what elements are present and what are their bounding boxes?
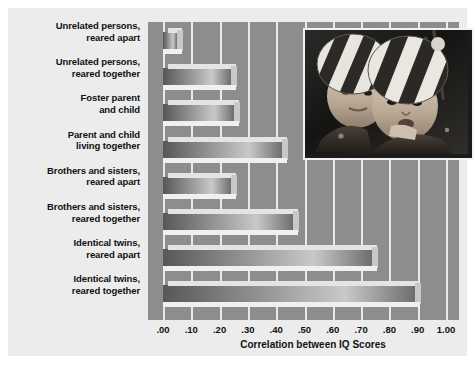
bar-shadow — [163, 121, 239, 126]
bar-top-face — [168, 137, 287, 142]
category-label-line: reared together — [8, 285, 140, 297]
bar-shadow — [163, 85, 236, 90]
bar-shadow — [163, 49, 182, 54]
x-tick-label: 1.00 — [429, 324, 463, 335]
bar-shadow — [163, 194, 236, 199]
bar-top-face — [168, 100, 239, 105]
bar — [163, 177, 231, 194]
category-label: Brothers and sisters,reared apart — [8, 165, 140, 188]
bar-right-face — [372, 247, 378, 268]
category-label-line: Unrelated persons, — [8, 20, 140, 32]
bar — [163, 141, 282, 158]
category-label-line: reared together — [8, 68, 140, 80]
bar-right-face — [415, 283, 421, 304]
category-label-line: Foster parent — [8, 92, 140, 104]
bar — [163, 285, 415, 302]
x-axis-title: Correlation between IQ Scores — [158, 339, 468, 350]
bar-right-face — [231, 175, 237, 196]
category-label: Identical twins,reared together — [8, 273, 140, 296]
category-label-line: living together — [8, 140, 140, 152]
category-label-line: reared apart — [8, 176, 140, 188]
bar-shadow — [163, 266, 377, 271]
photo-illustration — [305, 30, 468, 154]
bar-top-face — [168, 245, 377, 250]
bar-right-face — [234, 102, 240, 123]
category-label-line: reared together — [8, 213, 140, 225]
category-label-line: reared apart — [8, 249, 140, 261]
bar — [163, 213, 293, 230]
category-label-line: and child — [8, 104, 140, 116]
bar-shadow — [163, 302, 420, 307]
bar-top-face — [168, 209, 298, 214]
category-label-line: Parent and child — [8, 129, 140, 141]
bar-right-face — [293, 211, 299, 232]
category-label: Unrelated persons,reared apart — [8, 20, 140, 43]
bar-top-face — [168, 281, 420, 286]
category-label-line: Brothers and sisters, — [8, 165, 140, 177]
bar-top-face — [168, 64, 236, 69]
category-label: Brothers and sisters,reared together — [8, 201, 140, 224]
category-label: Parent and childliving together — [8, 129, 140, 152]
category-label-line: Unrelated persons, — [8, 56, 140, 68]
bar-right-face — [177, 30, 183, 51]
category-label: Foster parentand child — [8, 92, 140, 115]
category-label: Identical twins,reared apart — [8, 237, 140, 260]
bar-top-face — [168, 173, 236, 178]
category-label-line: Identical twins, — [8, 237, 140, 249]
bar-shadow — [163, 158, 287, 163]
chart-figure: Unrelated persons,reared apartUnrelated … — [0, 0, 475, 366]
twin-toddlers-photo — [303, 28, 474, 160]
bar-right-face — [282, 139, 288, 160]
bar — [163, 32, 177, 49]
category-label: Unrelated persons,reared together — [8, 56, 140, 79]
bar — [163, 249, 372, 266]
bar-right-face — [231, 66, 237, 87]
bar — [163, 104, 234, 121]
category-label-line: Brothers and sisters, — [8, 201, 140, 213]
chart-panel: Unrelated persons,reared apartUnrelated … — [8, 8, 467, 356]
bar-shadow — [163, 230, 298, 235]
category-label-line: Identical twins, — [8, 273, 140, 285]
category-label-line: reared apart — [8, 32, 140, 44]
bar — [163, 68, 231, 85]
